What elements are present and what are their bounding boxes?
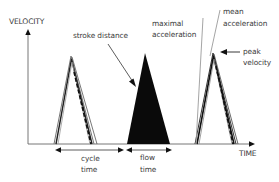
cycle-time-right-arrowhead-icon — [118, 147, 124, 152]
x-axis-label: TIME — [239, 148, 256, 159]
stroke-distance-arrowhead-icon — [129, 79, 136, 88]
flow-time-right-arrowhead-icon — [166, 147, 172, 152]
peak-velocity-label-line2: velocity — [243, 57, 271, 68]
stroke-distance-pointer — [108, 44, 136, 87]
flow-time-label-line1: flow — [140, 152, 155, 163]
peak-velocity-arrowhead-icon — [220, 49, 227, 55]
peak-velocity-label-line1: peak — [243, 46, 261, 57]
mean-acceleration-label-line1: mean — [223, 6, 244, 17]
maximal-acceleration-label-line1: maximal — [152, 18, 183, 29]
maximal-acceleration-label-line2: acceleration — [152, 29, 196, 40]
velocity-time-diagram: VELOCITY TIME stroke distance maximal ac… — [0, 0, 279, 182]
y-axis-arrowhead-icon — [25, 29, 30, 35]
mean-acceleration-label-line2: acceleration — [223, 18, 267, 29]
mean-acceleration-line — [210, 10, 220, 56]
cycle-time-left-arrowhead-icon — [55, 147, 61, 152]
y-axis-label: VELOCITY — [9, 16, 44, 27]
flow-time-label-line2: time — [140, 164, 156, 175]
cycle-time-span — [55, 147, 124, 152]
cycle-time-label-line2: time — [81, 164, 97, 175]
flow-time-left-arrowhead-icon — [126, 147, 132, 152]
peak-velocity-pointer — [220, 49, 240, 55]
flow-triangle-filled — [127, 53, 170, 144]
peak-triangle-outlined — [195, 53, 238, 144]
cycle-triangle-outlined — [54, 56, 97, 144]
x-axis-arrowhead-icon — [249, 141, 255, 146]
y-axis — [25, 29, 30, 144]
cycle-time-label-line1: cycle — [81, 153, 100, 164]
stroke-distance-label: stroke distance — [73, 30, 128, 41]
